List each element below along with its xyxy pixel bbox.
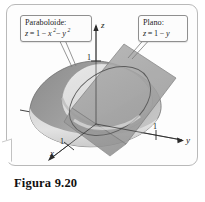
y-tick-label-1: 1 bbox=[153, 122, 157, 131]
callout-paraboloid: Paraboloide: z=1−x2−y2 bbox=[20, 15, 92, 42]
eq-minus-1: − bbox=[42, 29, 47, 38]
y-axis-arrow bbox=[177, 137, 184, 143]
eq-lhs: z bbox=[25, 29, 28, 38]
figure-caption: Figura 9.20 bbox=[14, 176, 77, 191]
z-axis-label: z bbox=[100, 20, 105, 30]
callout-plane-title: Plano: bbox=[143, 18, 183, 28]
callout-plane-equation: z=1−y bbox=[143, 29, 183, 39]
figure-container: z y x 1 1 1 Paraboloide: z=1−x2−y2 Plano… bbox=[0, 0, 205, 202]
eq-minus-1: − bbox=[160, 29, 165, 38]
eq-y-exponent: 2 bbox=[67, 27, 70, 33]
callout-paraboloid-title: Paraboloide: bbox=[25, 18, 87, 28]
z-axis-arrow bbox=[93, 24, 98, 31]
callout-plane: Plano: z=1−y bbox=[138, 15, 188, 42]
x-axis-label: x bbox=[49, 148, 54, 158]
eq-one: 1 bbox=[36, 29, 40, 38]
eq-equals: = bbox=[30, 29, 35, 38]
eq-equals: = bbox=[148, 29, 153, 38]
z-tick-label-1: 1 bbox=[87, 53, 91, 62]
eq-lhs: z bbox=[143, 29, 146, 38]
eq-minus-2: − bbox=[56, 29, 61, 38]
eq-y: y bbox=[62, 29, 66, 38]
x-tick-label-1: 1 bbox=[60, 137, 64, 146]
eq-y: y bbox=[166, 29, 170, 38]
eq-one: 1 bbox=[154, 29, 158, 38]
eq-x: x bbox=[48, 29, 52, 38]
callout-paraboloid-equation: z=1−x2−y2 bbox=[25, 29, 87, 39]
y-axis-label: y bbox=[185, 135, 190, 145]
